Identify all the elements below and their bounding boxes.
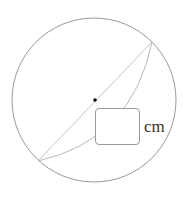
answer-input-box[interactable]: [95, 108, 140, 145]
center-point: [93, 98, 97, 102]
circle-diagram: [0, 0, 189, 199]
unit-label: cm: [144, 117, 165, 137]
